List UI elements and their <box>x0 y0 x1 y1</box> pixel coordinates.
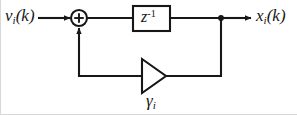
input-signal-label: vi(k) <box>5 7 35 26</box>
input-base: v <box>5 6 13 25</box>
block-diagram-canvas: vi(k) xi(k) z-1 γi <box>0 0 297 115</box>
input-argument: (k) <box>16 6 35 25</box>
output-base: x <box>256 6 264 25</box>
delay-superscript: -1 <box>147 8 156 19</box>
gain-triangle-shape <box>142 59 166 93</box>
output-signal-label: xi(k) <box>256 7 286 26</box>
gain-subscript: i <box>153 99 156 111</box>
gain-coefficient-label: γi <box>146 92 156 111</box>
gain-base: γ <box>146 91 153 110</box>
output-argument: (k) <box>267 6 286 25</box>
delay-block-label: z-1 <box>141 9 156 25</box>
branch-junction-dot <box>218 15 224 21</box>
